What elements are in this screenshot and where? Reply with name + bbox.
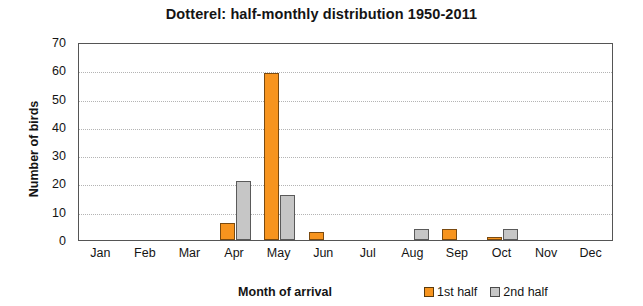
x-tick-label: Sep bbox=[446, 246, 468, 260]
y-tick-label: 60 bbox=[0, 64, 72, 78]
x-tick-label: Nov bbox=[535, 246, 557, 260]
bar bbox=[442, 229, 457, 240]
bar bbox=[220, 223, 235, 240]
gridline bbox=[79, 72, 612, 73]
y-tick-label: 10 bbox=[0, 206, 72, 220]
x-tick-label: Jan bbox=[90, 246, 110, 260]
x-tick-label: Mar bbox=[179, 246, 201, 260]
bar bbox=[309, 232, 324, 240]
chart-title: Dotterel: half-monthly distribution 1950… bbox=[0, 6, 643, 22]
bar bbox=[236, 181, 251, 240]
bar bbox=[414, 229, 429, 240]
x-axis-tick-labels: JanFebMarAprMayJunJulAugSepOctNovDec bbox=[78, 246, 613, 266]
gridline bbox=[79, 214, 612, 215]
gridline bbox=[79, 101, 612, 102]
bar bbox=[264, 73, 279, 240]
y-tick-label: 30 bbox=[0, 149, 72, 163]
legend-label: 2nd half bbox=[503, 285, 547, 299]
y-tick-label: 0 bbox=[0, 234, 72, 248]
gridline bbox=[79, 185, 612, 186]
x-tick-label: Jun bbox=[313, 246, 333, 260]
x-tick-label: Feb bbox=[134, 246, 156, 260]
legend-swatch-icon bbox=[424, 287, 434, 297]
x-axis-title: Month of arrival bbox=[190, 285, 380, 299]
y-tick-label: 70 bbox=[0, 36, 72, 50]
bar bbox=[503, 229, 518, 240]
x-tick-label: Dec bbox=[580, 246, 602, 260]
bar bbox=[280, 195, 295, 240]
legend-entry: 1st half bbox=[424, 285, 477, 299]
y-tick-label: 50 bbox=[0, 93, 72, 107]
gridlines bbox=[79, 44, 612, 240]
x-tick-label: Apr bbox=[224, 246, 243, 260]
x-tick-label: Jul bbox=[360, 246, 376, 260]
plot-area bbox=[78, 43, 613, 241]
x-tick-label: May bbox=[267, 246, 291, 260]
bar-chart: Dotterel: half-monthly distribution 1950… bbox=[0, 0, 643, 306]
bar bbox=[487, 237, 502, 240]
x-tick-label: Aug bbox=[401, 246, 423, 260]
legend-swatch-icon bbox=[490, 287, 500, 297]
y-tick-label: 40 bbox=[0, 121, 72, 135]
gridline bbox=[79, 129, 612, 130]
y-axis-tick-labels: 010203040506070 bbox=[0, 43, 72, 241]
y-tick-label: 20 bbox=[0, 177, 72, 191]
gridline bbox=[79, 157, 612, 158]
legend-entry: 2nd half bbox=[490, 285, 547, 299]
legend-label: 1st half bbox=[437, 285, 477, 299]
x-tick-label: Oct bbox=[492, 246, 511, 260]
chart-legend: 1st half2nd half bbox=[424, 283, 548, 301]
